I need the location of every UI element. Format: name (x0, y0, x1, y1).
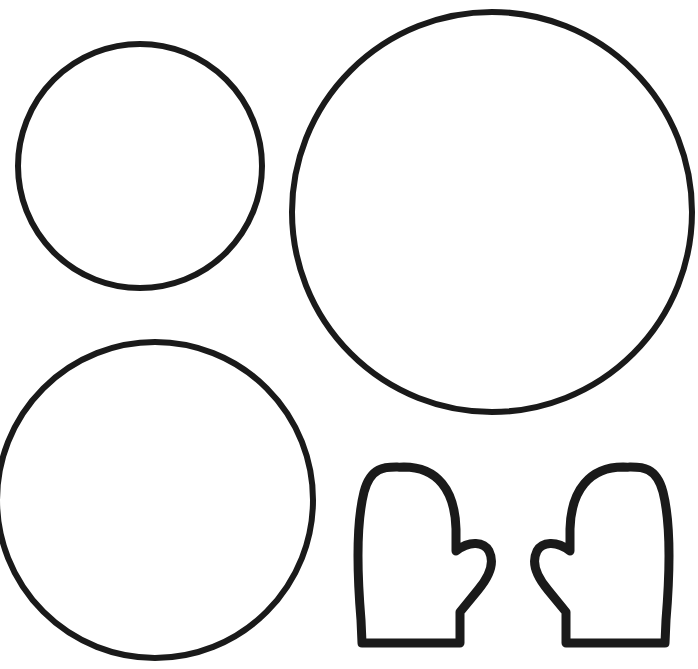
snowman-template-svg (0, 0, 698, 669)
template-canvas (0, 0, 698, 669)
